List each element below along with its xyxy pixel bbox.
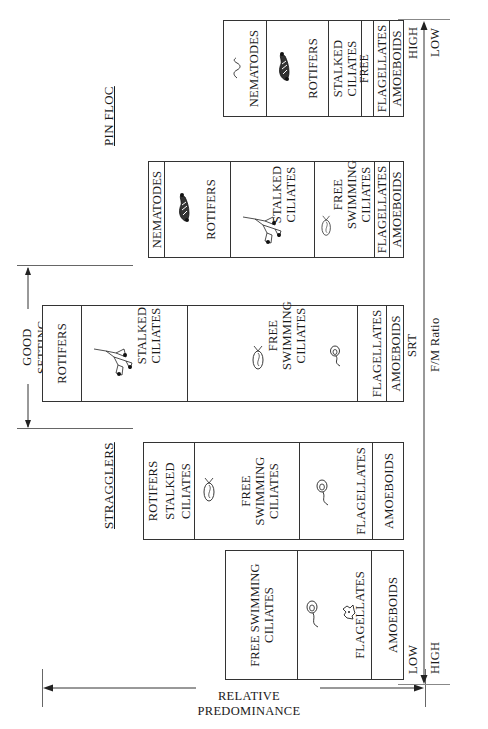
- x-axis-arrow-line: [0, 0, 488, 729]
- x-axis-left-srt: LOW: [406, 645, 421, 674]
- x-axis-right-srt: HIGH: [406, 27, 421, 59]
- x-axis-srt-label: SRT: [405, 334, 420, 357]
- diagram-canvas: RELATIVE PREDOMINANCE FREE SWIMMING CILI…: [0, 0, 488, 729]
- x-axis-right-fm: LOW: [428, 28, 443, 57]
- x-axis-left-fm: HIGH: [428, 642, 443, 674]
- x-axis-fm-label: F/M Ratio: [428, 318, 443, 372]
